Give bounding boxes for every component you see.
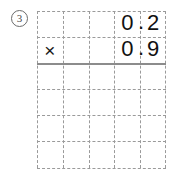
grid-cell-r1c2[interactable] bbox=[63, 11, 89, 37]
grid-row bbox=[37, 63, 166, 89]
grid-cell-r1c3[interactable] bbox=[89, 11, 115, 37]
grid-cell-r6c1[interactable] bbox=[37, 141, 63, 168]
grid-hline-6 bbox=[37, 168, 166, 169]
grid-vline-0 bbox=[37, 11, 38, 168]
answer-rule bbox=[37, 63, 166, 65]
grid-row: 0 2 bbox=[37, 11, 166, 37]
grid-cell-r5c4[interactable] bbox=[114, 115, 140, 141]
grid-hline-5 bbox=[37, 141, 166, 142]
grid-hline-0 bbox=[37, 11, 166, 12]
grid-cell-r5c1[interactable] bbox=[37, 115, 63, 141]
grid-cell-r3c4[interactable] bbox=[114, 63, 140, 89]
grid-cell-r1c1[interactable] bbox=[37, 11, 63, 37]
cell-value: 9 bbox=[147, 38, 159, 60]
grid-cell-r4c5[interactable] bbox=[140, 89, 166, 115]
grid-hline-1 bbox=[37, 37, 166, 38]
grid-vline-3 bbox=[114, 11, 115, 168]
grid-cell-r3c3[interactable] bbox=[89, 63, 115, 89]
grid-cell-r6c4[interactable] bbox=[114, 141, 140, 168]
problem-number-label: 3 bbox=[17, 13, 23, 24]
grid-cell-r4c1[interactable] bbox=[37, 89, 63, 115]
calculation-grid: 0 2 × 0 9 bbox=[37, 11, 166, 168]
grid-cell-r6c3[interactable] bbox=[89, 141, 115, 168]
grid-row bbox=[37, 89, 166, 115]
problem-number-badge: 3 bbox=[11, 10, 28, 27]
grid-cell-r3c2[interactable] bbox=[63, 63, 89, 89]
grid-vline-5 bbox=[165, 11, 166, 168]
grid-hline-3 bbox=[37, 89, 166, 90]
grid-cell-r5c3[interactable] bbox=[89, 115, 115, 141]
grid-row bbox=[37, 115, 166, 141]
grid-cell-r4c2[interactable] bbox=[63, 89, 89, 115]
grid-cell-r6c5[interactable] bbox=[140, 141, 166, 168]
grid-row: × 0 9 bbox=[37, 37, 166, 63]
grid-cell-r5c5[interactable] bbox=[140, 115, 166, 141]
grid-cell-r4c4[interactable] bbox=[114, 89, 140, 115]
grid-cell-r5c2[interactable] bbox=[63, 115, 89, 141]
cell-value: 2 bbox=[147, 12, 159, 34]
grid-vline-1 bbox=[63, 11, 64, 168]
grid-cell-r3c1[interactable] bbox=[37, 63, 63, 89]
grid-cell-r2c3[interactable] bbox=[89, 37, 115, 63]
grid-cell-r2c1[interactable]: × bbox=[37, 37, 63, 63]
worksheet-canvas: 3 0 2 × 0 9 bbox=[0, 0, 180, 174]
decimal-point-operand-1: . bbox=[137, 11, 145, 37]
cell-value: 0 bbox=[121, 38, 133, 60]
grid-cell-r3c5[interactable] bbox=[140, 63, 166, 89]
grid-row bbox=[37, 141, 166, 168]
cell-value: 0 bbox=[121, 12, 133, 34]
grid-vline-2 bbox=[89, 11, 90, 168]
grid-hline-4 bbox=[37, 115, 166, 116]
grid-cell-r6c2[interactable] bbox=[63, 141, 89, 168]
multiplication-operator: × bbox=[44, 41, 55, 60]
grid-cell-r4c3[interactable] bbox=[89, 89, 115, 115]
grid-cell-r2c2[interactable] bbox=[63, 37, 89, 63]
decimal-point-operand-2: . bbox=[137, 37, 145, 63]
